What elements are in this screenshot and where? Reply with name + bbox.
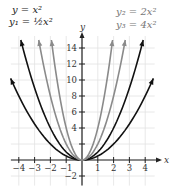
x-tick-label: −2 [44,163,57,173]
y-tick-label: 4 [72,123,77,133]
legend-label-y3: y₃ = 4x² [116,19,156,30]
legend-label-y2: y₂ = 2x² [116,6,156,17]
x-tick-label: 1 [95,163,100,173]
legend-label-y1: y₁ = ½x² [9,16,53,27]
y-tick-label: 6 [72,107,77,117]
x-tick-label: 4 [142,163,147,173]
x-axis-arrow-icon [156,158,162,163]
x-tick-label: 3 [127,163,132,173]
y-tick-label: 12 [66,59,77,69]
y-axis-label: y [79,22,86,32]
y-tick-label: 14 [66,43,77,53]
arrowhead-icon [37,40,42,46]
legend-label-y: y = x² [12,4,42,15]
x-tick-label: −4 [13,163,26,173]
y-tick-label: −2 [64,171,77,181]
y-axis-arrow-icon [80,32,85,38]
y-tick-label: 10 [66,75,77,85]
y-tick-label: 8 [72,91,77,101]
x-tick-label: 2 [111,163,116,173]
x-tick-label: −3 [28,163,41,173]
arrowhead-icon [122,40,127,46]
x-axis-label: x [164,155,169,165]
